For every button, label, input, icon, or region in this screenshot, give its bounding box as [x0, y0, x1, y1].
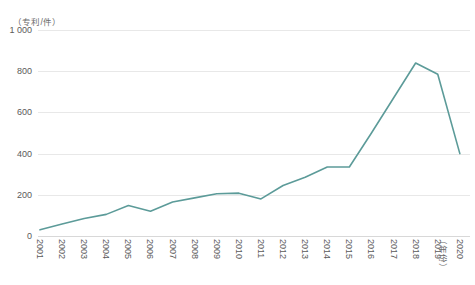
y-axis-tick-label: 600: [17, 108, 32, 117]
series-line-patents: [40, 63, 460, 230]
x-axis-tick-label: 2002: [57, 239, 66, 259]
y-axis-tick-label: 800: [17, 67, 32, 76]
x-axis-labels: 2001200220032004200520062007200820092010…: [38, 239, 470, 285]
x-axis-tick-label: 2013: [300, 239, 309, 259]
x-axis-tick-label: 2020: [455, 239, 464, 259]
x-axis-tick-label: 2011: [256, 239, 265, 258]
x-axis-tick-label: 2015: [344, 239, 353, 259]
y-axis-tick-label: 200: [17, 190, 32, 199]
y-axis-tick-label: 1 000: [9, 26, 32, 35]
x-axis-tick-label: 2003: [79, 239, 88, 259]
x-axis-tick-label: 2001: [35, 239, 44, 259]
x-axis-unit-label: （年份）: [438, 236, 450, 272]
x-axis-tick-label: 2005: [123, 239, 132, 259]
x-axis-tick-label: 2010: [234, 239, 243, 259]
x-axis-tick-label: 2007: [168, 239, 177, 259]
plot-area: 02004006008001 000: [38, 30, 470, 236]
line-chart: （专利/件） 02004006008001 000 20012002200320…: [0, 0, 475, 285]
x-axis-tick-label: 2018: [411, 239, 420, 259]
x-axis-tick-label: 2014: [322, 239, 331, 259]
x-axis-tick-label: 2008: [190, 239, 199, 259]
x-axis-tick-label: 2016: [366, 239, 375, 259]
x-axis-tick-label: 2017: [389, 239, 398, 259]
x-axis-tick-label: 2012: [278, 239, 287, 259]
series-line-group: [38, 30, 470, 236]
gridline: [38, 236, 470, 237]
x-axis-tick-label: 2009: [212, 239, 221, 259]
y-axis-tick-label: 0: [27, 232, 32, 241]
x-axis-tick-label: 2006: [145, 239, 154, 259]
y-axis-tick-label: 400: [17, 149, 32, 158]
x-axis-tick-label: 2004: [101, 239, 110, 259]
